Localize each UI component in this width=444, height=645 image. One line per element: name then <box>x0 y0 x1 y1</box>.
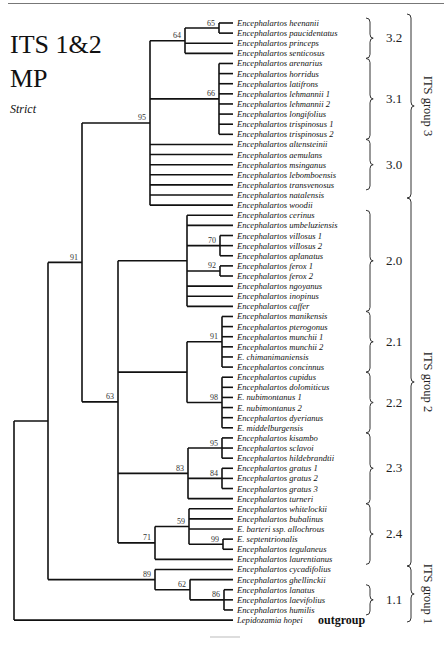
taxon-label: Encephalartos natalensis <box>236 190 325 200</box>
taxon-label: Encephalartos msinganus <box>236 160 327 170</box>
clade-brace <box>366 311 373 372</box>
clade-brace <box>366 58 373 139</box>
taxon-label: Encephalartos ngoyanus <box>236 281 323 291</box>
taxon-label: Encephalartos villosus 1 <box>236 231 322 241</box>
taxon-label: Encephalartos inopinus <box>236 291 320 301</box>
clade-label: 2.3 <box>386 460 402 475</box>
its-group-label: ITS group 2 <box>421 352 435 412</box>
taxon-label: E. chimanimaniensis <box>236 352 309 362</box>
taxon-label: Encephalartos gratus 2 <box>236 473 318 483</box>
taxon-label: Encephalartos manikensis <box>236 311 328 321</box>
taxon-label: E. nubimontanus 1 <box>236 392 302 402</box>
taxon-label: Encephalartos ferox 1 <box>236 261 313 271</box>
bootstrap-value: 92 <box>208 261 216 270</box>
taxon-label: Encephalartos pterogonus <box>236 322 328 332</box>
bootstrap-value: 63 <box>106 392 114 401</box>
taxon-label: Encephalartos turneri <box>236 494 314 504</box>
taxon-label: Encephalartos cerinus <box>236 210 315 220</box>
taxon-label: Encephalartos concinnus <box>236 362 325 372</box>
clade-brace <box>366 139 373 189</box>
taxon-label: Encephalartos dyerianus <box>236 413 324 423</box>
clade-brace <box>366 210 373 311</box>
bootstrap-value: 83 <box>176 464 184 473</box>
bootstrap-value: 99 <box>211 535 219 544</box>
taxon-label: Encephalartos villosus 2 <box>236 241 323 251</box>
taxon-label: Encephalartos cycadifolius <box>236 564 331 574</box>
bootstrap-value: 59 <box>177 517 185 526</box>
bootstrap-value: 95 <box>138 113 146 122</box>
clade-brace <box>366 504 373 565</box>
footer-mark <box>210 636 240 638</box>
taxon-label: Encephalartos laevifolius <box>236 595 326 605</box>
taxon-label: Encephalartos bubalinus <box>236 514 324 524</box>
taxon-label: Encephalartos princeps <box>236 38 320 48</box>
clade-label: 2.2 <box>386 395 402 410</box>
taxon-label: Encephalartos woodii <box>236 200 313 210</box>
clade-label: 2.1 <box>386 334 402 349</box>
its-group-label: ITS group 3 <box>421 76 435 136</box>
bootstrap-value: 86 <box>212 590 220 599</box>
bootstrap-value: 70 <box>208 236 216 245</box>
bootstrap-value: 98 <box>210 393 218 402</box>
taxon-label: Encephalartos trispinosus 2 <box>236 129 334 139</box>
group-brace <box>407 198 414 566</box>
clade-brace <box>366 433 373 504</box>
taxon-label: E. septentrionalis <box>236 534 298 544</box>
group-brace <box>407 14 414 198</box>
taxon-label: Encephalartos whitelockii <box>236 504 328 514</box>
taxon-label: Encephalartos humilis <box>236 605 315 615</box>
taxon-label: E. middelburgensis <box>236 423 304 433</box>
clade-label: 1.1 <box>386 592 402 607</box>
bootstrap-value: 89 <box>143 570 151 579</box>
group-brace <box>407 566 414 622</box>
taxon-label: Encephalartos longifolius <box>236 109 327 119</box>
clade-label: 3.0 <box>386 157 402 172</box>
taxon-label: E. nubimontanus 2 <box>236 403 302 413</box>
taxon-label: Encephalartos lehmannii 1 <box>236 89 330 99</box>
clade-label: 3.2 <box>386 30 402 45</box>
bootstrap-value: 71 <box>143 533 151 542</box>
bootstrap-value: 64 <box>173 31 181 40</box>
bootstrap-value: 91 <box>70 253 78 262</box>
outgroup-label: outgroup <box>318 613 365 627</box>
clade-label: 3.1 <box>386 91 402 106</box>
its-group-label: ITS group 1 <box>421 564 435 624</box>
taxon-label: Encephalartos latifrons <box>236 79 319 89</box>
taxon-label: Encephalartos sclavoi <box>236 443 314 453</box>
taxon-label: Encephalartos transvenosus <box>236 180 335 190</box>
taxon-label: Encephalartos tegulaneus <box>236 544 327 554</box>
taxon-label: Encephalartos gratus 1 <box>236 463 318 473</box>
taxon-label: Encephalartos munchii 1 <box>236 332 323 342</box>
taxon-label: Encephalartos gratus 3 <box>236 484 318 494</box>
taxon-label: Encephalartos dolomiticus <box>236 382 330 392</box>
taxon-label: Encephalartos munchii 2 <box>236 342 324 352</box>
clade-brace <box>366 372 373 433</box>
taxon-label: E. barteri ssp. allochrous <box>236 524 325 534</box>
taxon-label: Encephalartos laurentianus <box>236 554 333 564</box>
taxon-label: Encephalartos umbeluziensis <box>236 220 338 230</box>
clade-brace <box>366 18 373 58</box>
bootstrap-value: 66 <box>207 89 215 98</box>
bootstrap-value: 62 <box>178 580 186 589</box>
taxon-label: Encephalartos cupidus <box>236 372 317 382</box>
taxon-label: Encephalartos arenarius <box>236 58 323 68</box>
phylogenetic-tree: 65646695709291989584839959716391866289En… <box>0 0 444 645</box>
taxon-label: Encephalartos caffer <box>236 301 310 311</box>
taxon-label: Encephalartos horridus <box>236 69 320 79</box>
taxon-label: Lepidozamia hopei <box>236 615 303 625</box>
taxon-label: Encephalartos aplanatus <box>236 251 324 261</box>
taxon-label: Encephalartos senticosus <box>236 48 325 58</box>
clade-label: 2.4 <box>386 526 403 541</box>
bootstrap-value: 65 <box>207 19 215 28</box>
taxon-label: Encephalartos kisambo <box>236 433 319 443</box>
taxon-label: Encephalartos heenanii <box>236 18 319 28</box>
taxon-label: Encephalartos hildebrandtii <box>236 453 335 463</box>
taxon-label: Encephalartos trispinosus 1 <box>236 119 333 129</box>
bootstrap-value: 95 <box>210 439 218 448</box>
bootstrap-value: 84 <box>210 469 218 478</box>
bootstrap-value: 91 <box>210 332 218 341</box>
taxon-label: Encephalartos lebomboensis <box>236 170 337 180</box>
taxon-label: Encephalartos altensteinii <box>236 139 328 149</box>
clade-label: 2.0 <box>386 253 402 268</box>
taxon-label: Encephalartos lehmannii 2 <box>236 99 331 109</box>
